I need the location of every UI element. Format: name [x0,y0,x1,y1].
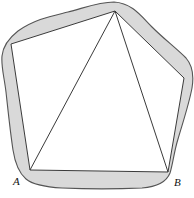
vertex-label-a: A [13,176,20,187]
vertex-label-b: B [174,177,181,188]
figure-container: A B [0,0,194,198]
geometry-diagram [0,0,194,198]
